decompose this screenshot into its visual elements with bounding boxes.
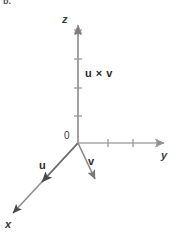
y-axis-label: y xyxy=(161,150,167,161)
y-axis xyxy=(78,139,164,147)
axes-and-vectors-svg xyxy=(0,0,178,235)
origin-label: 0 xyxy=(64,131,70,141)
vector-u-line xyxy=(42,143,78,182)
x-axis-label: x xyxy=(5,219,11,230)
z-axis-label: z xyxy=(62,14,68,25)
vector-u xyxy=(42,143,78,182)
cross-product-label: u × v xyxy=(85,68,113,79)
vector-cross-product-figure: b. z y x 0 u v u × v xyxy=(0,0,178,235)
part-label: b. xyxy=(3,0,11,6)
vector-v-label: v xyxy=(88,156,94,167)
vector-u-label: u xyxy=(39,160,46,171)
